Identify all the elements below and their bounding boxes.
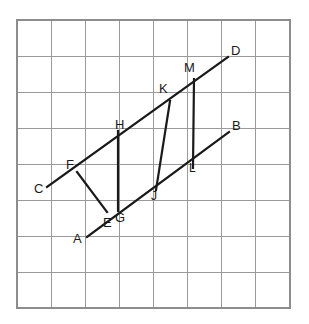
point-label-C: C — [34, 182, 43, 195]
geometry-figure: A B C D E F G H J K L M — [0, 0, 309, 324]
point-label-L: L — [189, 162, 196, 175]
point-label-K: K — [159, 82, 168, 95]
segment-F-E — [77, 172, 107, 212]
point-label-H: H — [115, 118, 124, 131]
point-label-J: J — [151, 190, 157, 203]
point-label-E: E — [103, 216, 112, 229]
line-C-D — [47, 57, 228, 187]
segment-M-L — [193, 79, 194, 168]
point-label-D: D — [231, 44, 240, 57]
point-label-B: B — [232, 119, 241, 132]
geometry-canvas — [0, 0, 309, 324]
point-label-A: A — [73, 232, 82, 245]
point-label-M: M — [184, 61, 195, 74]
point-label-G: G — [115, 211, 125, 224]
point-label-F: F — [66, 158, 74, 171]
